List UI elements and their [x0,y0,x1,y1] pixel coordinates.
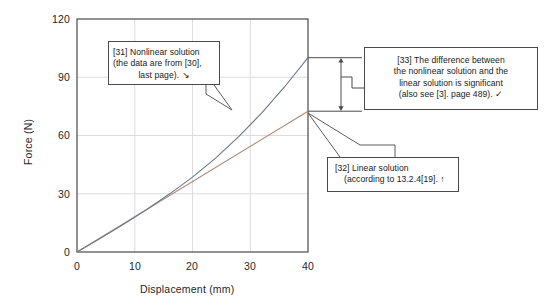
x-tick-0: 0 [62,260,92,272]
callout-33-line1: [33] The difference between [371,55,531,66]
callout-31-nonlinear: [31] Nonlinear solution (the data are fr… [108,41,220,85]
y-tick-60: 60 [36,129,70,141]
callout-33-line3: linear solution is significant [371,78,531,89]
callout-32-line2: (according to 13.2.4[19]. ↑ [335,174,453,185]
x-tick-10: 10 [120,260,150,272]
leader-lines-callout32 [308,113,395,157]
callout-33-difference: [33] The difference between the nonlinea… [364,47,538,110]
callout-33-line4: (also see [3]. page 489). ✓ [371,89,531,100]
callout-33-line2: the nonlinear solution and the [371,66,531,77]
x-tick-30: 30 [235,260,265,272]
callout-32-linear: [32] Linear solution (according to 13.2.… [327,157,459,192]
callout-31-line1: [31] Nonlinear solution [113,47,215,58]
chart-figure: 120 90 60 30 0 0 10 20 30 40 Displacemen… [0,0,548,306]
y-tick-90: 90 [36,71,70,83]
y-tick-120: 120 [36,13,70,25]
x-tick-40: 40 [293,260,323,272]
y-axis-title: Force (N) [22,119,34,165]
x-tick-20: 20 [177,260,207,272]
y-tick-30: 30 [36,188,70,200]
difference-bracket [308,58,364,111]
y-tick-0: 0 [36,246,70,258]
callout-31-line3: last page). ↘ [113,70,215,81]
x-axis-title: Displacement (mm) [140,283,234,295]
callout-32-line1: [32] Linear solution [335,163,453,174]
bracket-arrow-down-icon [338,106,343,111]
callout-31-line2: (the data are from [30], [113,58,215,69]
bracket-arrow-up-icon [338,58,343,63]
